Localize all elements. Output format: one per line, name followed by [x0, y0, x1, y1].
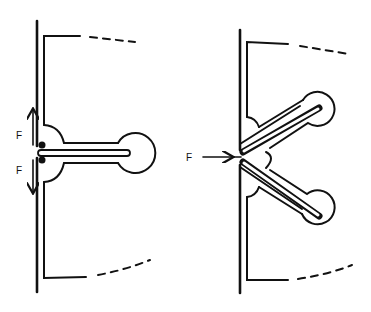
- left-top-dashed-edge: [90, 37, 135, 42]
- right-top-dashed-edge: [300, 46, 349, 54]
- right-inner-boundary-bottom: [247, 197, 288, 280]
- left-bottom-dashed-edge: [98, 260, 150, 275]
- left-force-label-top: F: [16, 130, 22, 141]
- right-panel: [203, 30, 352, 293]
- right-force-label: F: [186, 152, 192, 163]
- left-rod: [38, 150, 130, 156]
- left-force-label-bottom: F: [16, 165, 22, 176]
- right-bottom-dashed-edge: [298, 265, 352, 279]
- left-inner-boundary-bottom: [44, 182, 86, 278]
- right-lower-bulb: [270, 170, 335, 224]
- right-inner-boundary-top: [247, 42, 288, 117]
- left-inner-boundary-top: [44, 36, 80, 125]
- left-panel: [33, 21, 155, 292]
- left-bulb: [118, 133, 155, 173]
- diagram-figure: F F F: [0, 0, 371, 312]
